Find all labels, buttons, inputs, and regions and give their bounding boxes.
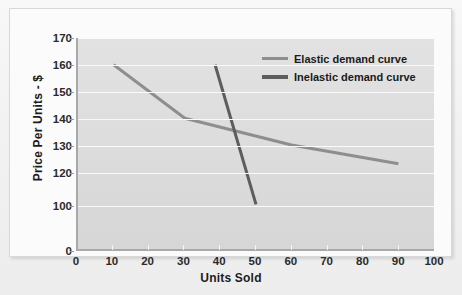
x-tick-label: 70 <box>320 255 333 267</box>
x-tick-label: 50 <box>249 255 262 267</box>
x-tick-mark <box>148 245 149 250</box>
x-tick-label: 60 <box>284 255 297 267</box>
x-tick-label: 10 <box>105 255 118 267</box>
x-tick-label: 40 <box>213 255 226 267</box>
gridline <box>78 38 434 39</box>
x-axis-tick-labels: 0102030405060708090100 <box>76 251 434 271</box>
legend-label-elastic: Elastic demand curve <box>294 53 407 65</box>
gridline <box>78 92 434 93</box>
y-tick-mark <box>70 119 74 120</box>
x-tick-mark <box>327 245 328 250</box>
chart-legend: Elastic demand curve Inelastic demand cu… <box>262 51 432 87</box>
chart-card: 0100120130140150160170 01020304050607080… <box>9 8 452 257</box>
y-tick-mark <box>70 251 74 252</box>
y-tick-mark <box>70 173 74 174</box>
legend-item-inelastic: Inelastic demand curve <box>262 69 432 84</box>
y-tick-mark <box>70 92 74 93</box>
x-tick-mark <box>112 245 113 250</box>
x-tick-label: 80 <box>356 255 369 267</box>
x-tick-label: 20 <box>141 255 154 267</box>
x-tick-mark <box>183 245 184 250</box>
gridline <box>78 173 434 174</box>
legend-label-inelastic: Inelastic demand curve <box>294 71 416 83</box>
y-tick-mark <box>70 206 74 207</box>
legend-line-swatch-elastic <box>262 57 288 60</box>
y-tick-mark <box>70 146 74 147</box>
y-axis-title: Price Per Units - $ <box>31 48 45 208</box>
x-tick-mark <box>362 245 363 250</box>
legend-item-elastic: Elastic demand curve <box>262 51 432 66</box>
x-tick-label: 100 <box>424 255 443 267</box>
x-tick-mark <box>398 245 399 250</box>
x-tick-mark <box>291 245 292 250</box>
y-tick-mark <box>70 38 74 39</box>
gridline <box>78 206 434 207</box>
gridline <box>78 146 434 147</box>
x-tick-mark <box>219 245 220 250</box>
legend-line-swatch-inelastic <box>262 75 288 79</box>
y-tick-mark <box>70 65 74 66</box>
x-tick-label: 30 <box>177 255 190 267</box>
x-axis-title: Units Sold <box>0 271 462 285</box>
chart-screenshot: 0100120130140150160170 01020304050607080… <box>0 0 462 295</box>
x-tick-label: 0 <box>73 255 79 267</box>
x-tick-mark <box>255 245 256 250</box>
gridline <box>78 119 434 120</box>
x-tick-label: 90 <box>392 255 405 267</box>
